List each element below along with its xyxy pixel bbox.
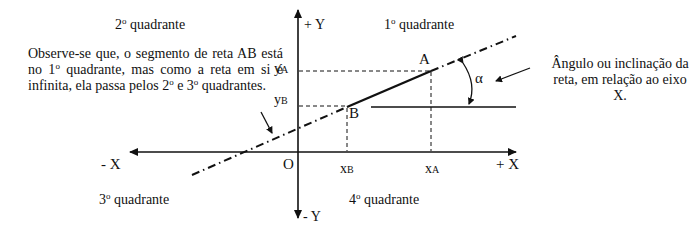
infinite-line-upper <box>431 36 516 71</box>
tick-label-xB: xB <box>340 160 354 178</box>
infinite-line-lower <box>192 107 347 175</box>
label-y-negative: - Y <box>303 208 321 225</box>
pointer-arrow-alpha <box>496 68 530 81</box>
label-y-positive: + Y <box>304 16 325 33</box>
label-quadrant-1: 1o quadrante <box>384 16 454 33</box>
label-origin: O <box>283 156 294 173</box>
label-point-A: A <box>419 51 430 68</box>
segment-AB <box>347 71 431 107</box>
note-segment-explanation: Observe-se que, o segmento de reta AB es… <box>28 46 283 94</box>
angle-alpha-label: α <box>475 70 483 87</box>
angle-arc <box>463 63 472 104</box>
label-quadrant-4: 4o quadrante <box>349 191 419 208</box>
label-quadrant-3: 3o quadrante <box>99 191 169 208</box>
note-angle-explanation: Ângulo ou inclinação da reta, em relação… <box>545 56 695 104</box>
tick-label-xA: xA <box>425 160 439 178</box>
label-x-negative: - X <box>101 156 121 173</box>
label-x-positive: + X <box>496 156 519 173</box>
label-quadrant-2: 2o quadrante <box>115 16 185 33</box>
label-point-B: B <box>349 105 359 122</box>
pointer-arrow-extension <box>261 112 272 133</box>
